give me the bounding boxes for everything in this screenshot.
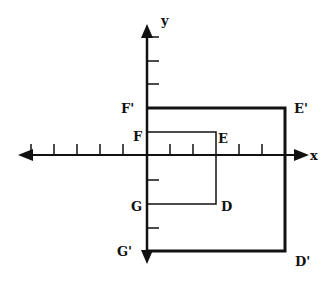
label-f-prime: F'	[121, 101, 134, 116]
label-x: x	[310, 148, 318, 163]
coordinate-plane: y x F' E' F E G D G' D'	[0, 0, 336, 282]
label-g: G	[131, 199, 142, 214]
label-e: E	[218, 131, 228, 146]
label-f: F	[133, 129, 143, 144]
label-g-prime: G'	[117, 244, 132, 259]
rectangle-defg	[147, 132, 216, 204]
y-axis-top-arrow-icon	[141, 24, 153, 38]
label-y: y	[160, 13, 169, 28]
label-e-prime: E'	[294, 101, 308, 116]
x-axis-right-arrow-icon	[294, 149, 309, 161]
label-d-prime: D'	[295, 254, 310, 269]
label-d: D	[221, 199, 232, 214]
